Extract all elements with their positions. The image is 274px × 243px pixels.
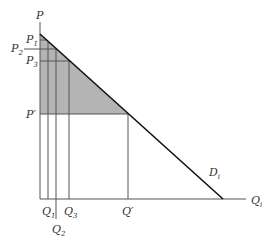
demand-line (40, 34, 223, 199)
p3-label: P3 (25, 54, 38, 69)
p-prime-label: P′ (25, 108, 36, 121)
q1-label: Q1 (42, 205, 56, 220)
x-axis-label: Qi (251, 194, 262, 209)
q-prime-label: Q′ (122, 205, 134, 218)
y-axis-label: P (35, 9, 44, 22)
q2-label: Q2 (52, 223, 66, 238)
demand-curve-label: Di (208, 166, 220, 181)
demand-diagram: P P1 P2 P3 P′ Q1 Q2 Q3 Q′ Qi Di (0, 0, 274, 243)
q3-label: Q3 (64, 205, 78, 220)
p1-label: P1 (25, 33, 38, 48)
p2-label: P2 (10, 42, 23, 57)
